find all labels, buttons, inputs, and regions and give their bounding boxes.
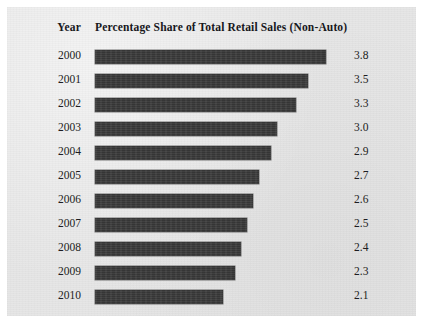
row-year-label: 2009 — [7, 265, 81, 277]
column-header-series: Percentage Share of Total Retail Sales (… — [95, 21, 347, 33]
row-year-label: 2007 — [7, 217, 81, 229]
chart-row: 20013.5 — [7, 69, 416, 93]
row-bar — [95, 146, 271, 160]
chart-row: 20092.3 — [7, 261, 416, 285]
page-canvas: Year Percentage Share of Total Retail Sa… — [0, 0, 423, 333]
row-year-label: 2005 — [7, 169, 81, 181]
row-year-label: 2004 — [7, 145, 81, 157]
chart-row: 20102.1 — [7, 285, 416, 309]
row-year-label: 2006 — [7, 193, 81, 205]
row-year-label: 2003 — [7, 121, 81, 133]
chart-row: 20003.8 — [7, 45, 416, 69]
row-value-label: 2.9 — [354, 145, 394, 157]
chart-row: 20072.5 — [7, 213, 416, 237]
row-value-label: 2.6 — [354, 193, 394, 205]
chart-row: 20023.3 — [7, 93, 416, 117]
row-bar — [95, 266, 235, 280]
chart-panel: Year Percentage Share of Total Retail Sa… — [7, 7, 416, 316]
row-value-label: 2.5 — [354, 217, 394, 229]
row-bar — [95, 218, 247, 232]
row-bar — [95, 122, 277, 136]
chart-row: 20042.9 — [7, 141, 416, 165]
row-value-label: 3.3 — [354, 97, 394, 109]
row-value-label: 3.8 — [354, 49, 394, 61]
row-year-label: 2010 — [7, 289, 81, 301]
row-value-label: 2.4 — [354, 241, 394, 253]
column-header-year: Year — [7, 21, 81, 33]
row-value-label: 2.7 — [354, 169, 394, 181]
chart-row: 20033.0 — [7, 117, 416, 141]
row-year-label: 2000 — [7, 49, 81, 61]
row-year-label: 2001 — [7, 73, 81, 85]
row-bar — [95, 170, 259, 184]
row-value-label: 3.0 — [354, 121, 394, 133]
row-year-label: 2002 — [7, 97, 81, 109]
chart-row: 20062.6 — [7, 189, 416, 213]
row-bar — [95, 50, 326, 64]
row-bar — [95, 242, 241, 256]
row-value-label: 2.1 — [354, 289, 394, 301]
chart-row: 20052.7 — [7, 165, 416, 189]
row-year-label: 2008 — [7, 241, 81, 253]
row-bar — [95, 98, 296, 112]
row-bar — [95, 194, 253, 208]
row-value-label: 3.5 — [354, 73, 394, 85]
row-value-label: 2.3 — [354, 265, 394, 277]
row-bar — [95, 290, 223, 304]
chart-row: 20082.4 — [7, 237, 416, 261]
row-bar — [95, 74, 308, 88]
horizontal-bar-chart: Year Percentage Share of Total Retail Sa… — [7, 7, 416, 316]
